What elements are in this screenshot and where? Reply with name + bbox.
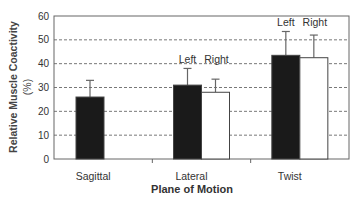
annotation-right: Right	[303, 16, 328, 28]
y-tick-label: 50	[38, 34, 50, 45]
chart: 0102030405060SagittalLateralTwistLeftRig…	[0, 0, 358, 198]
x-category-label: Lateral	[175, 170, 207, 182]
y-tick-label: 10	[38, 130, 50, 141]
x-axis-title: Plane of Motion	[151, 183, 233, 195]
y-tick-label: 30	[38, 82, 50, 93]
bar-right-twist	[300, 58, 328, 159]
x-category-label: Sagittal	[76, 170, 111, 182]
y-tick-label: 0	[43, 154, 49, 165]
bar-right-lateral	[202, 92, 230, 159]
annotation-left: Left	[179, 53, 197, 65]
bar-left-sagittal	[76, 97, 104, 159]
y-axis-unit: (%)	[21, 79, 33, 95]
annotation-left: Left	[277, 16, 295, 28]
annotation-right: Right	[204, 53, 229, 65]
y-tick-label: 20	[38, 106, 50, 117]
x-category-label: Twist	[278, 170, 302, 182]
y-tick-label: 40	[38, 58, 50, 69]
y-tick-label: 60	[38, 11, 50, 22]
y-axis-title: Relative Muscle Coactivity	[7, 21, 19, 153]
bar-left-lateral	[174, 85, 202, 159]
bar-left-twist	[272, 55, 300, 159]
